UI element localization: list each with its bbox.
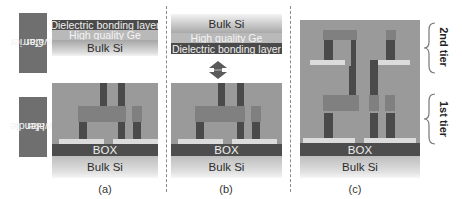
stacked-device-region bbox=[300, 20, 420, 144]
flipped-ge-layer: High quality Ge bbox=[171, 33, 282, 43]
tier2-via-center bbox=[351, 40, 356, 66]
tier2-brace-icon bbox=[423, 22, 437, 74]
tier1-contact-2 bbox=[370, 113, 378, 138]
tier2-gate-left bbox=[323, 30, 357, 40]
tier1-gate-mid bbox=[369, 95, 379, 111]
high-quality-ge-layer: High quality Ge bbox=[52, 30, 158, 40]
box-layer-c: BOX bbox=[300, 143, 420, 156]
flipped-dielectric-layer: Dielectric bonding layer bbox=[171, 43, 282, 54]
gate-right bbox=[132, 106, 142, 122]
via-1 bbox=[100, 83, 107, 106]
tier2-strip-left bbox=[310, 60, 345, 65]
box-layer: BOX bbox=[52, 144, 158, 156]
divider-1 bbox=[166, 6, 167, 192]
tier1-gate-block bbox=[323, 95, 359, 111]
caption-c: (c) bbox=[335, 183, 375, 195]
caption-b: (b) bbox=[206, 183, 246, 195]
contact-3-b bbox=[252, 122, 260, 140]
contact-1 bbox=[79, 122, 87, 140]
divider-2 bbox=[290, 6, 291, 192]
tier2-gate-right bbox=[386, 30, 396, 40]
tier2-label: 2nd tier bbox=[438, 27, 450, 67]
tier1-contact-3 bbox=[386, 113, 395, 138]
via-1-b bbox=[218, 83, 225, 106]
inter-tier-via-1 bbox=[349, 66, 356, 98]
contact-1-b bbox=[196, 122, 204, 140]
contact-2-b bbox=[237, 122, 244, 140]
carrier-bulk-si: Bulk Si bbox=[52, 40, 158, 56]
tier2-strip-right bbox=[378, 60, 410, 65]
gate-right-b bbox=[251, 106, 261, 122]
caption-a: (a) bbox=[85, 183, 125, 195]
bulk-si-c: Bulk Si bbox=[300, 156, 420, 178]
carrier-label-line2: wafer bbox=[22, 37, 56, 49]
handle-wafer-label: Handlewafer bbox=[19, 97, 47, 157]
carrier-wafer-label: Carrierwafer bbox=[19, 13, 47, 73]
via-2-b bbox=[237, 83, 244, 106]
contact-2 bbox=[118, 122, 125, 140]
tier2-contact-left bbox=[324, 40, 333, 60]
gate-block-b bbox=[195, 106, 245, 122]
handle-bulk-si-b: Bulk Si bbox=[171, 156, 282, 178]
flipped-bulk-si: Bulk Si bbox=[171, 14, 282, 33]
tier1-brace-icon bbox=[423, 93, 437, 145]
gate-block bbox=[78, 106, 126, 122]
tier1-label: 1st tier bbox=[438, 101, 450, 137]
box-layer-b: BOX bbox=[171, 144, 282, 156]
bond-arrow-icon bbox=[208, 60, 228, 80]
tier1-contact-1 bbox=[324, 113, 333, 138]
contact-3 bbox=[133, 122, 141, 140]
tier1-gate-right bbox=[385, 95, 395, 111]
via-2 bbox=[118, 83, 125, 106]
inter-tier-via-2 bbox=[370, 60, 378, 98]
tier2-contact-right bbox=[386, 40, 395, 60]
handle-bulk-si: Bulk Si bbox=[52, 156, 158, 178]
